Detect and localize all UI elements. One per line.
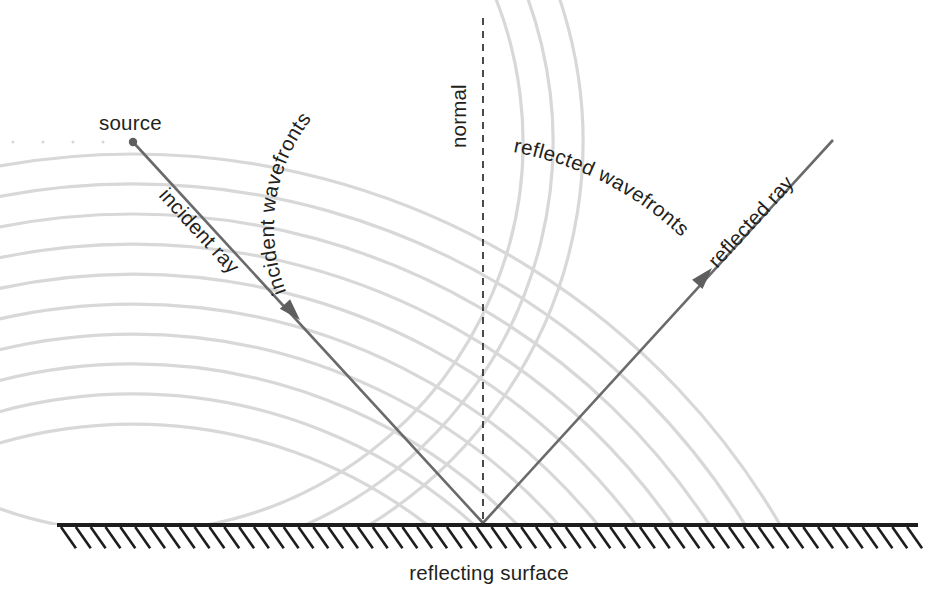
source-point [129,138,137,146]
normal-label: normal [447,84,470,148]
reflection-diagram-svg: source incident ray incident wavefronts … [0,0,939,609]
reflected-ray-label: reflected ray [703,171,798,272]
reflecting-surface-hatching [61,527,922,548]
reflecting-surface-label: reflecting surface [409,561,569,584]
reflected-wavefronts-label: reflected wavefronts [512,133,694,240]
diagram-canvas: source incident ray incident wavefronts … [0,0,939,609]
incident-ray-arrowhead [280,299,300,320]
source-label: source [99,111,162,134]
incident-wavefronts-label: incident wavefronts [255,107,315,299]
reflected-ray-arrowhead [692,268,712,289]
incident-ray-label: incident ray [155,183,245,278]
